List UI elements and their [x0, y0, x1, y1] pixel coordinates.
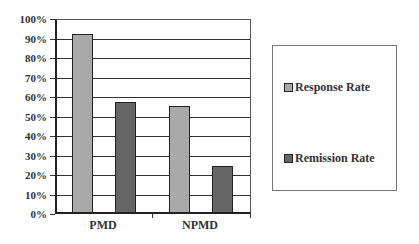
legend-label: Response Rate	[295, 80, 370, 95]
y-tick-label: 10%	[0, 189, 47, 201]
legend-item-remission-rate: Remission Rate	[284, 151, 375, 166]
legend-item-response-rate: Response Rate	[284, 80, 370, 95]
y-tick-label: 30%	[0, 150, 47, 162]
legend-label: Remission Rate	[295, 151, 375, 166]
y-tick-mark	[50, 214, 55, 215]
x-label-npmd: NPMD	[170, 218, 230, 233]
y-tick-label: 80%	[0, 52, 47, 64]
plot-area	[55, 19, 251, 214]
bar-pmd-response-rate	[72, 34, 93, 212]
y-tick-label: 90%	[0, 33, 47, 45]
legend-swatch-remission-icon	[284, 154, 293, 163]
bar-pmd-remission-rate	[115, 102, 136, 212]
y-tick-label: 70%	[0, 72, 47, 84]
y-tick-label: 50%	[0, 111, 47, 123]
legend-swatch-response-icon	[284, 83, 293, 92]
x-tick	[250, 214, 251, 218]
bar-npmd-remission-rate	[212, 166, 233, 212]
x-tick	[152, 214, 153, 218]
x-label-pmd: PMD	[73, 218, 133, 233]
y-tick-label: 40%	[0, 130, 47, 142]
y-tick-label: 100%	[0, 13, 47, 25]
bar-npmd-response-rate	[169, 106, 190, 212]
y-tick-label: 0%	[0, 208, 47, 220]
y-tick-label: 20%	[0, 169, 47, 181]
y-tick-label: 60%	[0, 91, 47, 103]
legend: Response Rate Remission Rate	[272, 45, 397, 191]
